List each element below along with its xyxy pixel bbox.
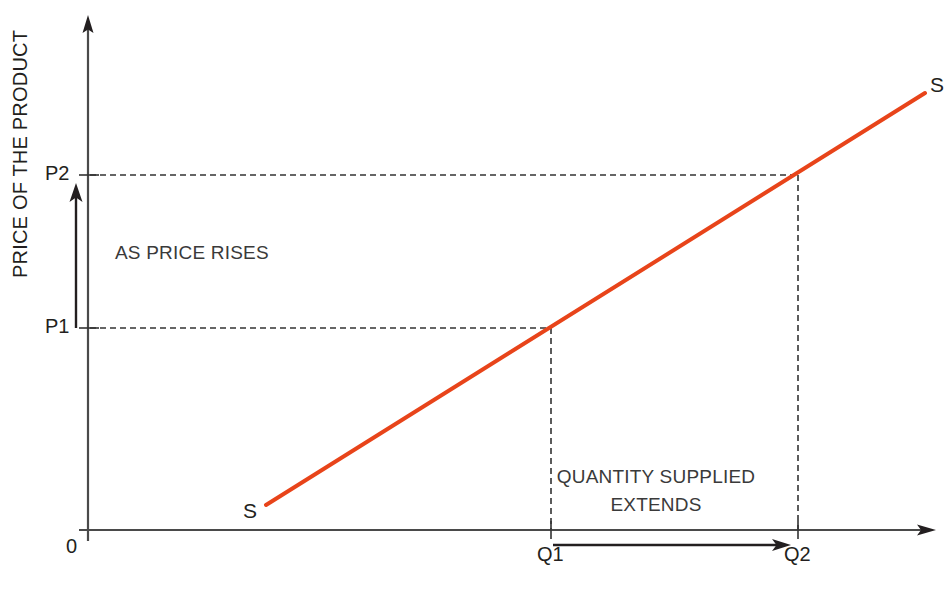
quantity-low-label: Q1 bbox=[537, 544, 564, 564]
axes-group bbox=[79, 15, 936, 541]
supply-curve-line bbox=[266, 93, 925, 505]
quantity-extends-annotation: QUANTITY SUPPLIED EXTENDS bbox=[556, 463, 756, 518]
origin-label: 0 bbox=[66, 536, 77, 556]
price-rises-annotation: AS PRICE RISES bbox=[115, 243, 269, 262]
quantity-high-label: Q2 bbox=[784, 544, 811, 564]
supply-curve-diagram: PRICE OF THE PRODUCT 0 P2 P1 Q1 Q2 S S A… bbox=[0, 0, 946, 589]
diagram-canvas bbox=[0, 0, 946, 589]
supply-curve-end-label: S bbox=[930, 74, 944, 95]
price-high-label: P2 bbox=[45, 163, 69, 183]
y-axis-title-text: PRICE OF THE PRODUCT bbox=[10, 30, 30, 278]
supply-curve-start-label: S bbox=[243, 500, 257, 521]
y-axis-title: PRICE OF THE PRODUCT bbox=[0, 0, 32, 260]
price-low-label: P1 bbox=[45, 316, 69, 336]
